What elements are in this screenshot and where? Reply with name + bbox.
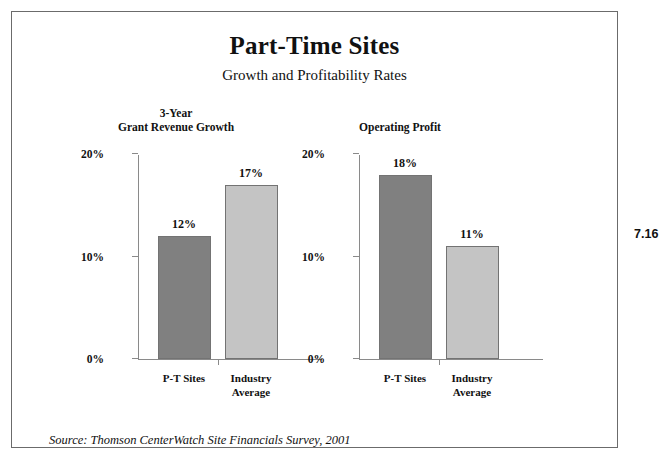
y-axis-tick-label: 20% <box>46 148 104 160</box>
x-axis-tick-mark <box>218 360 219 365</box>
source-note: Source: Thomson CenterWatch Site Financi… <box>49 433 350 448</box>
panel-title-grant-revenue-growth: 3-YearGrant Revenue Growth <box>46 106 306 135</box>
y-axis-tick-label: 10% <box>267 251 325 263</box>
page-title: Part-Time Sites <box>12 32 617 60</box>
bar-value-label: 12% <box>172 217 196 232</box>
bar <box>158 236 211 359</box>
figure-number: 7.16 <box>634 227 658 241</box>
y-axis-tick-label: 0% <box>46 353 104 365</box>
bar <box>379 175 432 360</box>
bar-value-label: 18% <box>393 156 417 171</box>
figure-frame: Part-Time Sites Growth and Profitability… <box>11 11 618 448</box>
y-axis-tick-mark <box>353 256 359 257</box>
y-axis-line <box>359 155 360 360</box>
y-axis-tick-label: 0% <box>267 353 325 365</box>
panel-title-operating-profit: Operating Profit <box>270 120 530 134</box>
bar <box>446 246 499 359</box>
y-axis-tick-mark <box>132 153 138 154</box>
y-axis-tick-mark <box>353 153 359 154</box>
bar-value-label: 11% <box>460 227 483 242</box>
x-axis-category-label: IndustryAverage <box>206 372 296 400</box>
y-axis-tick-label: 20% <box>267 148 325 160</box>
y-axis-tick-mark <box>132 256 138 257</box>
page-subtitle: Growth and Profitability Rates <box>12 67 617 84</box>
x-axis-line <box>359 359 543 360</box>
chart-panel-operating-profit: 0%10%20%18%P-T Sites11%IndustryAverage <box>329 149 559 369</box>
y-axis-tick-label: 10% <box>46 251 104 263</box>
x-axis-tick-mark <box>439 360 440 365</box>
bar-value-label: 17% <box>239 166 263 181</box>
bar <box>225 185 278 359</box>
x-axis-category-label: IndustryAverage <box>427 372 517 400</box>
y-axis-line <box>138 155 139 360</box>
